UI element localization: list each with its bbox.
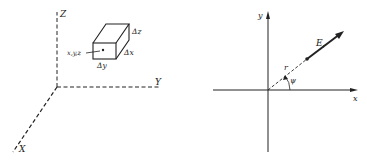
delta-z-label: Δz: [131, 27, 141, 36]
x-axis-label: X: [18, 144, 26, 154]
y-axis-label: y: [257, 11, 263, 20]
y-axis-arrowhead: [266, 11, 270, 19]
x-axis: [13, 87, 57, 152]
angle-label: ψ: [290, 76, 296, 85]
field-point-marker: [305, 57, 309, 61]
z-axis-label: Z: [59, 9, 67, 19]
delta-x-label: Δx: [123, 48, 134, 57]
box-front-face: [93, 43, 116, 59]
x-axis-arrowhead: [350, 88, 358, 92]
field-label: Er: [315, 38, 327, 49]
delta-y-label: Δy: [96, 61, 107, 70]
x-axis-label: x: [353, 94, 358, 103]
right-diagram: [213, 11, 358, 152]
y-axis-label: Y: [155, 77, 162, 87]
box-top-face: [93, 24, 129, 43]
figure-canvas: Z Y X x,y,z Δz Δx Δy y x r ψ Er: [0, 0, 367, 163]
point-coords-label: x,y,z: [67, 49, 82, 57]
radius-label: r: [284, 63, 289, 72]
point-marker: [102, 49, 104, 51]
